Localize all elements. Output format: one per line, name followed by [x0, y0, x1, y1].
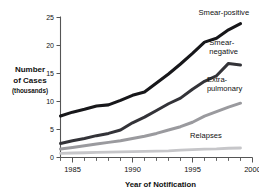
x-axis-tick-label: 2000	[244, 165, 259, 174]
x-axis-tick-label: 1995	[184, 165, 201, 174]
series-label-smear-negative: Smear-	[209, 38, 234, 47]
y-axis-tick-label: 15	[46, 70, 54, 77]
y-axis-tick-label: 10	[46, 98, 54, 105]
y-axis-title-line-2: of Cases	[13, 76, 47, 85]
y-axis-tick-label: 25	[46, 14, 54, 21]
x-axis-tick-label: 1990	[124, 165, 141, 174]
y-axis-tick-label: 5	[50, 126, 54, 133]
series-label-extra-pulmonary: Extra-	[207, 75, 228, 84]
series-label-smear-positive: Smear-positive	[199, 8, 250, 17]
series-label-extra-pulmonary: pulmonary	[207, 84, 243, 93]
chart-canvas: 05101520251985199019952000Year of Notifi…	[0, 0, 259, 196]
y-axis-title-line-3: (thousands)	[12, 87, 48, 95]
y-axis-title-line-1: Number	[15, 65, 45, 74]
series-label-relapses: Relapses	[190, 131, 222, 140]
x-axis-title: Year of Notification	[125, 180, 196, 189]
x-axis-tick-label: 1985	[64, 165, 81, 174]
y-axis-tick-label: 0	[50, 154, 54, 161]
y-axis-tick-label: 20	[46, 42, 54, 49]
series-line-relapses	[61, 148, 241, 153]
line-chart: 05101520251985199019952000Year of Notifi…	[0, 0, 259, 196]
series-label-smear-negative: negative	[209, 47, 238, 56]
